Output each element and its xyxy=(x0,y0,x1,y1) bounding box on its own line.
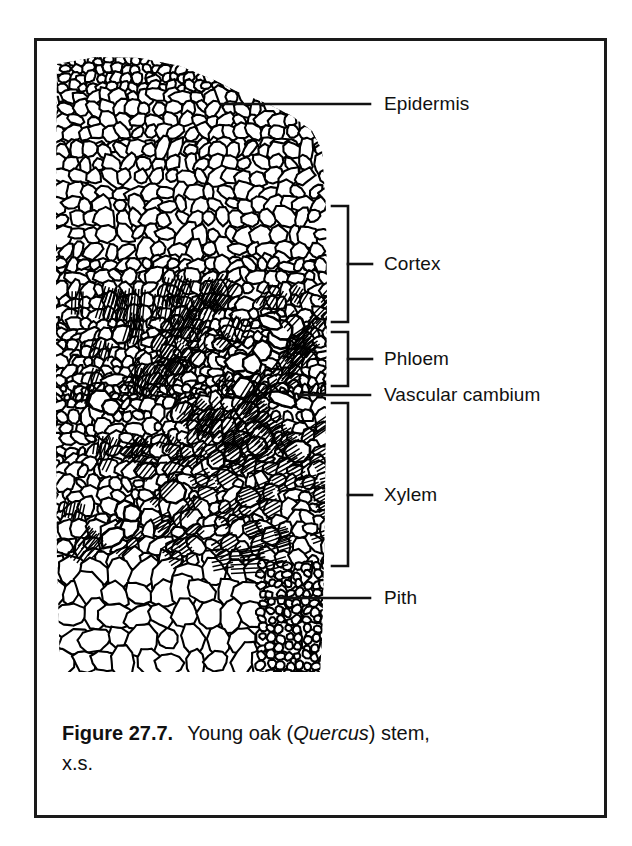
figure-page: Epidermis Cortex Phloem Vascular cambium… xyxy=(0,0,632,846)
caption-text-before-genus: Young oak ( xyxy=(187,722,293,744)
caption-genus: Quercus xyxy=(293,722,369,744)
caption-figure-number: Figure 27.7. xyxy=(62,722,173,744)
label-phloem: Phloem xyxy=(384,348,449,370)
label-pith: Pith xyxy=(384,587,417,609)
label-xylem: Xylem xyxy=(384,484,437,506)
label-cortex: Cortex xyxy=(384,253,441,275)
label-epidermis: Epidermis xyxy=(384,93,469,115)
caption-text-after-genus: ) stem, xyxy=(369,722,430,744)
caption-second-line: x.s. xyxy=(62,752,93,774)
label-vascular-cambium: Vascular cambium xyxy=(384,384,540,406)
figure-border xyxy=(34,38,607,818)
figure-caption: Figure 27.7.Young oak (Quercus) stem,x.s… xyxy=(62,718,522,778)
